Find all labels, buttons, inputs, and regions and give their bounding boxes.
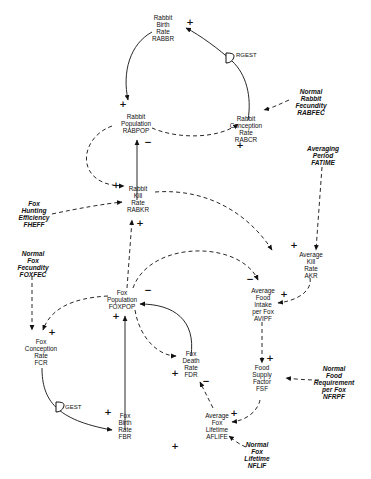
node-fox-hunting-efficiency: Fox Hunting Efficiency FHEFF (18, 200, 49, 228)
fox-gestation-delay-icon (56, 402, 64, 412)
causal-loop-diagram (0, 0, 371, 479)
link-rabkr-to-akr (155, 192, 272, 250)
label-line: Rate (118, 426, 132, 433)
label-line: FHEFF (18, 221, 49, 228)
polarity-plus: + (266, 354, 274, 363)
label-line: AFLIFE (205, 433, 229, 440)
node-food-supply-factor: Food Supply Factor FSF (252, 364, 272, 392)
label-line: Average (299, 251, 323, 258)
node-rabbit-kill-rate: Rabbit Kill Rate RABKR (127, 185, 149, 213)
link-rabbr-to-rabpop (126, 32, 152, 100)
polarity-plus: + (290, 241, 298, 250)
label-line: Intake (251, 301, 275, 308)
label-line: Food (252, 364, 272, 371)
label-line: Requirement (314, 379, 354, 386)
link-aflife-to-fdr (200, 382, 213, 408)
label-line: Rabbit (121, 113, 151, 120)
label-line: Normal (17, 250, 48, 257)
label-line: Food (251, 294, 275, 301)
label-line: Hunting (18, 207, 49, 214)
label-line: Averaging (307, 145, 339, 152)
label-line: Kill (299, 258, 323, 265)
rabbit-gestation-delay-label: RGEST (236, 52, 257, 58)
link-rabpop-to-rabkr (86, 126, 124, 186)
node-normal-fox-lifetime: Normal Fox Lifetime NFLIF (244, 441, 269, 469)
label-line: per Fox (251, 308, 275, 315)
label-line: Rate (25, 352, 57, 359)
label-line: Rate (182, 364, 199, 371)
polarity-plus: + (136, 219, 144, 228)
label-line: Birth (118, 419, 132, 426)
label-line: RABKR (127, 206, 149, 213)
label-line: Rate (299, 265, 323, 272)
label-line: FOXPOP (107, 303, 137, 310)
label-line: Factor (252, 378, 272, 385)
label-line: Food (314, 372, 354, 379)
polarity-minus: − (246, 275, 254, 284)
label-line: Rabbit (295, 95, 326, 102)
label-line: Rabbit (127, 185, 149, 192)
label-line: Population (121, 120, 151, 127)
node-rabbit-population: Rabbit Population RABPOP (121, 113, 151, 134)
label-line: Rabbit (230, 115, 262, 122)
node-fox-population: Fox Population FOXPOP (107, 289, 137, 310)
polarity-minus: − (144, 138, 152, 147)
node-average-food-intake-per-fox: Average Food Intake per Fox AVIPF (251, 287, 275, 322)
label-line: Period (307, 152, 339, 159)
node-fox-death-rate: Fox Death Rate FDR (182, 350, 199, 378)
polarity-plus: + (280, 290, 288, 299)
polarity-plus: + (186, 18, 194, 27)
polarity-plus: + (104, 408, 112, 417)
label-line: Fecundity (295, 102, 326, 109)
link-fheff-to-rabkr (52, 202, 122, 214)
polarity-plus: + (236, 141, 244, 150)
polarity-plus: + (112, 312, 120, 321)
polarity-plus: + (171, 369, 179, 378)
label-line: Conception (25, 345, 57, 352)
label-line: Fox (205, 419, 229, 426)
label-line: Fox (118, 412, 132, 419)
link-rabcr-to-rabbr (186, 28, 249, 120)
label-line: Average (205, 412, 229, 419)
label-line: Lifetime (205, 426, 229, 433)
label-line: AVIPF (251, 315, 275, 322)
polarity-plus: + (119, 100, 127, 109)
link-fatime-to-akr (316, 167, 322, 250)
label-line: RABFEC (295, 109, 326, 116)
label-line: Normal (314, 365, 354, 372)
label-line: Fox (244, 448, 269, 455)
label-line: FSF (252, 385, 272, 392)
link-rabpop-to-rabcr (152, 124, 238, 136)
label-line: Rabbit (152, 14, 174, 21)
link-foxpop-to-rabkr (127, 220, 132, 288)
node-normal-food-requirement-per-fox: Normal Food Requirement per Fox NFRPF (314, 365, 354, 400)
node-fox-conception-rate: Fox Conception Rate FCR (25, 338, 57, 366)
node-average-kill-rate: Average Kill Rate AKR (299, 251, 323, 279)
label-line: Average (251, 287, 275, 294)
fox-gestation-delay-label: GEST (65, 404, 81, 410)
node-normal-fox-fecundity: Normal Fox Fecundity FOXFEC (17, 250, 48, 278)
label-line: Fox (107, 289, 137, 296)
label-line: Death (182, 357, 199, 364)
label-line: per Fox (314, 386, 354, 393)
node-averaging-period: Averaging Period FATIME (307, 145, 339, 166)
polarity-minus: − (202, 377, 210, 386)
node-rabbit-birth-rate: Rabbit Birth Rate RABBR (152, 14, 174, 42)
label-line: Supply (252, 371, 272, 378)
link-foxpop-to-fdr (135, 310, 176, 356)
link-rabfec-to-rabcr (264, 100, 289, 110)
label-line: RABCR (230, 136, 262, 143)
node-fox-birth-rate: Fox Birth Rate FBR (118, 412, 132, 440)
polarity-plus: + (112, 181, 120, 190)
polarity-minus: − (144, 286, 152, 295)
polarity-plus: + (48, 328, 56, 337)
node-normal-rabbit-fecundity: Normal Rabbit Fecundity RABFEC (295, 88, 326, 116)
polarity-plus: + (230, 409, 238, 418)
label-line: RABBR (152, 35, 174, 42)
node-rabbit-conception-rate: Rabbit Conception Rate RABCR (230, 115, 262, 143)
label-line: Fox (182, 350, 199, 357)
label-line: Population (107, 296, 137, 303)
label-line: Rate (152, 28, 174, 35)
label-line: FATIME (307, 159, 339, 166)
link-fcr-to-fbr (42, 368, 112, 430)
